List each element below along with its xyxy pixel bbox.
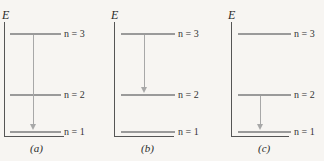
arrow-head-icon	[257, 124, 263, 130]
level-n1-label: n = 1	[294, 127, 315, 137]
baseline-axis	[231, 136, 289, 137]
energy-axis	[231, 22, 232, 136]
level-n3	[121, 33, 175, 35]
energy-axis-label: E	[228, 9, 235, 21]
energy-axis	[114, 22, 115, 136]
level-n3	[10, 33, 61, 35]
panel-caption-b: (b)	[141, 143, 154, 154]
baseline-axis	[4, 136, 64, 137]
level-n3	[238, 33, 291, 35]
level-n1-label: n = 1	[178, 127, 199, 137]
arrow-head-icon	[141, 87, 147, 93]
panel-caption-c: (c)	[258, 143, 270, 154]
energy-axis	[4, 22, 5, 136]
level-n2-label: n = 2	[294, 90, 315, 100]
level-n3-label: n = 3	[64, 29, 85, 39]
level-n1	[121, 131, 175, 133]
energy-diagram-a: E n = 3 n = 2 n = 1 (a)	[0, 0, 108, 161]
level-n3-label: n = 3	[294, 29, 315, 39]
energy-diagram-c: E n = 3 n = 2 n = 1 (c)	[216, 0, 324, 161]
energy-diagram-b: E n = 3 n = 2 n = 1 (b)	[108, 0, 216, 161]
transition-arrow-3-to-2	[144, 35, 145, 88]
level-n3-label: n = 3	[178, 29, 199, 39]
energy-axis-label: E	[111, 9, 118, 21]
transition-arrow-3-to-1	[33, 35, 34, 125]
transition-arrow-2-to-1	[260, 96, 261, 125]
level-n1	[238, 131, 291, 133]
level-n2	[121, 94, 175, 96]
level-n2	[10, 94, 61, 96]
level-n2	[238, 94, 291, 96]
level-n2-label: n = 2	[64, 90, 85, 100]
panel-caption-a: (a)	[30, 143, 43, 154]
energy-axis-label: E	[2, 9, 9, 21]
level-n2-label: n = 2	[178, 90, 199, 100]
arrow-head-icon	[30, 124, 36, 130]
level-n1	[10, 131, 61, 133]
level-n1-label: n = 1	[64, 127, 85, 137]
baseline-axis	[114, 136, 174, 137]
